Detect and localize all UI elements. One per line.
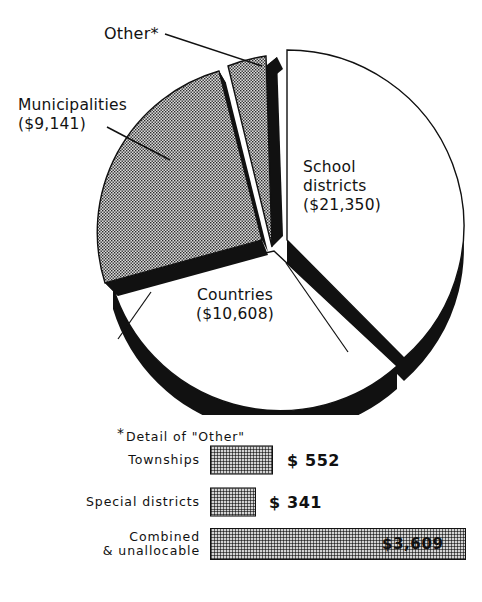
detail-of-other-section: *Detail of "Other" Townships $ 552 Speci…	[0, 415, 482, 602]
detail-bar-special-districts	[210, 488, 256, 517]
detail-bar-value-combined-unallocable: $3,609	[382, 535, 443, 553]
pie-label-school-districts-name2: districts	[303, 177, 381, 196]
government-expenditure-pie-figure: Other* Municipalities ($9,141) School di…	[0, 0, 482, 602]
pie-chart-svg	[0, 0, 482, 415]
footnote-asterisk: *	[117, 425, 125, 441]
pie-label-other: Other*	[104, 24, 159, 43]
pie-label-municipalities: Municipalities ($9,141)	[18, 96, 127, 134]
pie-chart-area: Other* Municipalities ($9,141) School di…	[0, 0, 482, 415]
pie-label-other-text: Other*	[104, 24, 159, 43]
pie-label-municipalities-name: Municipalities	[18, 96, 127, 115]
detail-bar-label-special-districts: Special districts	[86, 495, 200, 509]
leader-line-other	[165, 34, 262, 66]
pie-label-school-districts: School districts ($21,350)	[303, 158, 381, 215]
detail-of-other-title: *Detail of "Other"	[117, 425, 245, 444]
pie-label-school-districts-value: ($21,350)	[303, 196, 381, 215]
detail-bar-value-special-districts: $ 341	[269, 493, 322, 512]
detail-bar-value-townships: $ 552	[287, 451, 340, 470]
pie-label-countries-name: Countries	[196, 286, 274, 305]
pie-label-countries-value: ($10,608)	[196, 305, 274, 324]
detail-bar-townships	[210, 446, 273, 475]
detail-of-other-title-text: Detail of "Other"	[126, 429, 245, 444]
pie-label-school-districts-name1: School	[303, 158, 381, 177]
detail-bar-label-combined-unallocable: Combined & unallocable	[103, 530, 200, 558]
detail-bar-row-special-districts: Special districts $ 341	[0, 485, 482, 519]
detail-bar-row-townships: Townships $ 552	[0, 443, 482, 477]
pie-label-countries: Countries ($10,608)	[196, 286, 274, 324]
detail-bar-label-townships: Townships	[128, 453, 200, 467]
detail-bar-row-combined-unallocable: Combined & unallocable $3,609	[0, 527, 482, 561]
pie-label-municipalities-value: ($9,141)	[18, 115, 127, 134]
